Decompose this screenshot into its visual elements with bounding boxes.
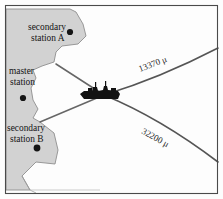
station-dot-secondary-b [34, 145, 41, 152]
station-label-secondary-b-line2: station B [10, 134, 44, 144]
station-label-master-line1: master [9, 66, 35, 76]
station-label-secondary-a-line2: station A [31, 33, 65, 43]
station-label-master-line2: station [10, 77, 35, 87]
station-dot-master [20, 95, 26, 101]
station-label-secondary-a-line1: secondary [28, 22, 66, 32]
station-dot-secondary-a [67, 29, 73, 35]
station-label-secondary-b-line1: secondary [7, 123, 45, 133]
navigation-chart-figure: secondary station A master station secon… [0, 0, 223, 199]
